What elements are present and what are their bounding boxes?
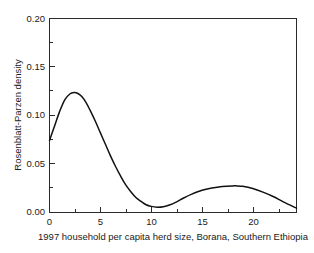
y-tick-label: 0.15 <box>27 61 46 72</box>
y-tick-label: 0.05 <box>27 158 46 169</box>
x-axis-title: 1997 household per capita herd size, Bor… <box>38 231 309 242</box>
y-tick-label: 0.10 <box>27 109 46 120</box>
y-tick-label: 0.20 <box>27 13 46 24</box>
chart-canvas: 0.00 0.05 0.10 0.15 0.20 0 5 10 15 20 19… <box>0 0 314 253</box>
x-tick-label: 0 <box>47 216 52 227</box>
y-axis-title: Rosenblatt-Parzen density <box>12 59 23 171</box>
density-plot-figure: 0.00 0.05 0.10 0.15 0.20 0 5 10 15 20 19… <box>0 0 314 253</box>
x-tick-label: 5 <box>98 216 103 227</box>
x-tick-label: 15 <box>197 216 208 227</box>
x-tick-label: 10 <box>146 216 157 227</box>
x-tick-label: 20 <box>248 216 259 227</box>
y-tick-label: 0.00 <box>27 206 46 217</box>
